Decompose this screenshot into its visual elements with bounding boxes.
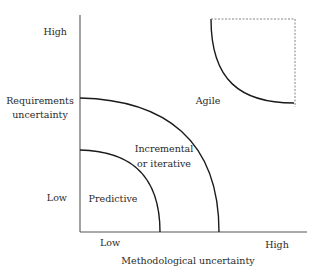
- region-incremental-label-line1: Incremental: [135, 143, 194, 154]
- y-axis-low-label: Low: [47, 192, 67, 203]
- region-incremental-label-line2: or iterative: [137, 158, 191, 169]
- lifecycle-diagram: High Requirements uncertainty Low Low Hi…: [0, 0, 320, 275]
- y-axis-high-label: High: [43, 26, 67, 37]
- region-predictive-label: Predictive: [89, 193, 138, 204]
- region-agile-label: Agile: [195, 95, 221, 106]
- y-axis-title-line2: uncertainty: [12, 109, 68, 120]
- y-axis-title-line1: Requirements: [6, 95, 74, 106]
- x-axis-high-label: High: [265, 239, 289, 250]
- agile-boundary-curve: [211, 19, 294, 103]
- agile-dashed-box: [211, 19, 295, 107]
- x-axis-title: Methodological uncertainty: [121, 255, 255, 266]
- x-axis-low-label: Low: [100, 237, 120, 248]
